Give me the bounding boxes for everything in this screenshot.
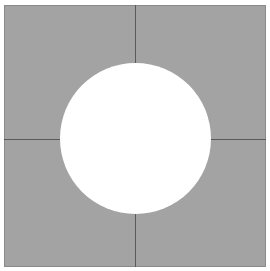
inscribed-circle xyxy=(60,63,211,214)
